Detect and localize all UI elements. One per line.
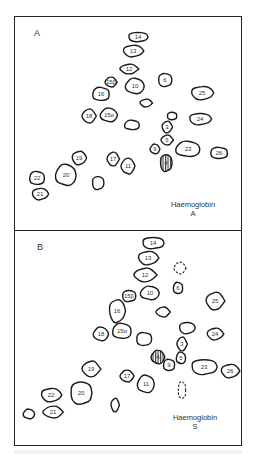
spot-label: 14 [135,34,142,40]
spot-label: 25 [212,298,219,304]
peptide-spot-22: 22 [30,171,45,184]
peptide-spot-20: 20 [55,164,76,185]
spot-label: 20 [63,172,70,178]
peptide-spot-17: 17 [120,370,134,382]
peptide-map-a: 14131215β10166251815α2435923264191711202… [15,17,241,230]
peptide-spot-unlabeled [111,398,119,412]
peptide-spot-9: 9 [150,144,160,154]
spot-label: 12 [142,272,149,278]
peptide-spot-3: 3 [162,121,172,133]
spot-label: 13 [130,48,137,54]
peptide-spot-24: 24 [190,113,212,124]
peptide-spot-19: 19 [82,361,101,377]
peptide-spot-9: 9 [164,359,175,370]
spot-label: 21 [37,191,44,197]
spot-label: 15β [124,293,135,299]
peptide-spot-22: 22 [42,388,62,401]
peptide-spot-11: 11 [121,158,135,174]
peptide-spot-11: 11 [137,375,154,393]
peptide-spot-unlabeled [174,262,186,274]
spot-label: 20 [78,390,85,396]
caption-variant: A [163,209,223,218]
peptide-spot-5: 5 [176,352,185,364]
spot-label: 10 [147,290,154,296]
peptide-spot-unlabeled [137,333,152,346]
spot-label: 15α [104,112,115,118]
peptide-spot-unlabeled [178,381,185,398]
peptide-spot-26: 26 [211,147,227,158]
peptide-spot-26: 26 [221,364,239,378]
panel-haemoglobin-a: A 14131215β10166251815α24359232641917112… [14,16,242,231]
peptide-spot-6: 6 [159,74,172,87]
peptide-spot-25: 25 [192,87,214,100]
spot-label: 11 [143,381,150,387]
spot-label: 19 [76,155,83,161]
peptide-spot-24: 24 [207,328,224,340]
peptide-spot-14: 14 [143,238,164,249]
spot-label: 15α [117,328,128,334]
peptide-spot-13: 13 [139,251,159,265]
peptide-spot-16: 16 [110,300,126,323]
spot-label: 21 [50,409,57,415]
peptide-spot-21: 21 [43,406,63,418]
peptide-spot-15α: 15α [100,108,117,122]
spot-label: 24 [212,331,219,337]
spot-label: 24 [197,116,204,122]
spot-label: 17 [124,373,131,379]
peptide-spot-21: 21 [32,188,48,200]
peptide-spot-unlabeled [93,177,104,190]
peptide-spot-15β: 15β [123,290,136,301]
peptide-spot-20: 20 [71,382,92,404]
peptide-spot-4: 4 [151,350,165,364]
caption-haemoglobin-a: Haemoglobin A [163,200,223,218]
spot-label: 26 [227,368,234,374]
peptide-spot-12: 12 [120,64,139,74]
peptide-spot-25: 25 [206,292,225,310]
peptide-spot-unlabeled [180,322,196,333]
peptide-spot-23: 23 [176,141,200,156]
spot-label: 23 [201,364,208,370]
peptide-spot-5: 5 [161,135,173,145]
spot-label: 22 [48,392,55,398]
caption-haemoglobin-s: Haemoglobin S [165,413,225,431]
peptide-spot-10: 10 [125,78,144,94]
spot-label: 22 [34,175,41,181]
peptide-spot-19: 19 [72,151,86,165]
figure-caption-faded [14,450,242,454]
peptide-spot-18: 18 [82,109,96,123]
spot-label: 12 [126,66,133,72]
peptide-spot-18: 18 [93,327,108,341]
spot-label: 19 [88,366,95,372]
peptide-spot-23: 23 [192,360,217,375]
spot-label: 14 [150,240,157,246]
peptide-spot-unlabeled [140,99,153,107]
peptide-spot-6: 6 [173,282,182,293]
peptide-spot-12: 12 [134,268,157,282]
spot-label: 23 [185,146,192,152]
caption-title: Haemoglobin [163,200,223,209]
peptide-spot-16: 16 [93,87,109,100]
spot-label: 16 [114,308,121,314]
peptide-spot-3: 3 [177,337,187,351]
spot-label: 25 [199,90,206,96]
panel-haemoglobin-s: B 14131210615β16251815α24345923261917112… [14,230,242,446]
spot-label: 17 [110,156,117,162]
spot-label: 18 [98,331,105,337]
peptide-spot-10: 10 [140,286,159,300]
spot-label: 26 [216,150,223,156]
peptide-spot-15α: 15α [113,323,131,338]
peptide-spot-17: 17 [107,152,120,166]
spot-label: 13 [145,255,152,261]
caption-variant: S [165,422,225,431]
peptide-spot-unlabeled [125,120,140,130]
peptide-spot-unlabeled [168,112,177,119]
peptide-spot-unlabeled [156,307,170,317]
spot-label: 16 [98,91,105,97]
peptide-spot-15β: 15β [105,77,117,87]
peptide-spot-13: 13 [124,45,144,57]
spot-label: 10 [132,83,139,89]
spot-label: 11 [125,163,132,169]
peptide-spot-4: 4 [161,155,173,172]
spot-label: 18 [86,113,93,119]
spot-label: 15β [106,79,117,85]
